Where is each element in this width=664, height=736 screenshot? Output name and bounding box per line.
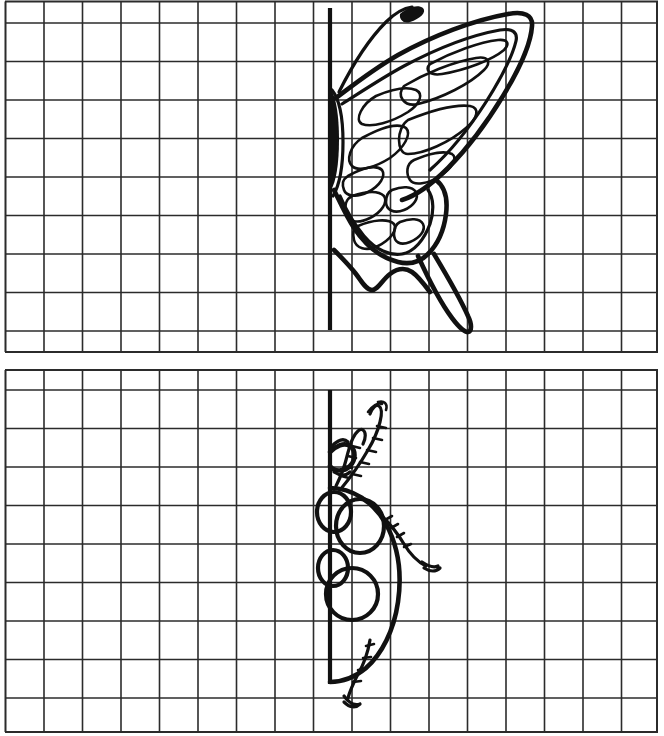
butterfly-antenna bbox=[339, 7, 412, 92]
ladybug-leg-upper bbox=[382, 516, 426, 566]
panel-ladybug bbox=[0, 368, 664, 736]
ladybug-spot-1 bbox=[336, 499, 384, 553]
ladybug-half-figure bbox=[317, 401, 440, 706]
panel-butterfly bbox=[0, 0, 664, 356]
butterfly-hindcell-4 bbox=[394, 219, 424, 243]
butterfly-half-figure bbox=[330, 6, 532, 332]
worksheet-page bbox=[0, 0, 664, 736]
ladybug-canvas bbox=[0, 368, 664, 736]
butterfly-canvas bbox=[0, 0, 664, 356]
